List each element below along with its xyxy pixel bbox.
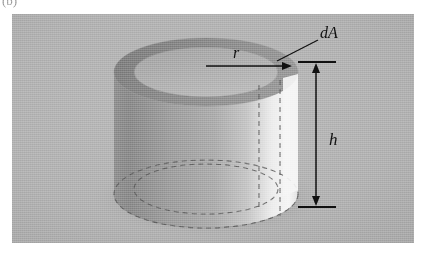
panel-label: (b): [2, 0, 17, 9]
cylinder-diagram-svg: r dA h: [0, 0, 431, 255]
cylinder-specular-highlight: [283, 74, 298, 196]
radius-label: r: [233, 44, 240, 61]
area-element-label: dA: [320, 24, 338, 41]
figure-panel: r dA h: [12, 14, 414, 243]
figure-canvas: (b): [0, 0, 431, 255]
height-label: h: [329, 130, 338, 149]
